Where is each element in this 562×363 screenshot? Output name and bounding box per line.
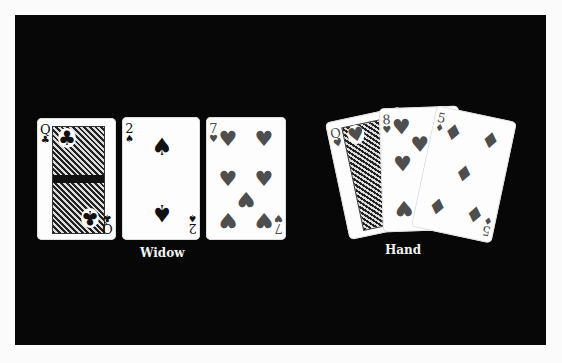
card-index-bottom: 7 ♥ xyxy=(274,213,283,235)
widow-card-two-of-spades[interactable]: 2 ♠ ♠ ♠ 2 ♠ xyxy=(122,117,200,240)
heart-icon: ♥ xyxy=(392,117,412,139)
heart-icon: ♥ xyxy=(394,197,414,219)
card-index-top: 8 ♥ xyxy=(382,113,392,135)
heart-icon: ♥ xyxy=(274,213,283,223)
diamond-icon: ♦ xyxy=(425,195,449,221)
heart-icon: ♥ xyxy=(219,129,238,150)
heart-icon: ♥ xyxy=(255,169,274,190)
widow-label: Widow xyxy=(140,246,185,260)
widow-card-queen-of-clubs[interactable]: Q ♣ ♣ ♣ Q ♣ xyxy=(37,118,116,240)
diamond-icon: ♦ xyxy=(478,128,502,154)
heart-icon: ♥ xyxy=(346,123,367,145)
spade-icon: ♠ xyxy=(125,134,134,144)
card-index-top: Q ♣ xyxy=(40,123,51,145)
card-index-bottom: Q ♣ xyxy=(102,213,113,235)
heart-icon: ♥ xyxy=(237,188,256,209)
heart-icon: ♥ xyxy=(393,154,413,176)
club-icon: ♣ xyxy=(40,135,51,145)
spade-icon: ♠ xyxy=(188,213,197,223)
heart-icon: ♥ xyxy=(219,169,238,190)
spade-icon: ♠ xyxy=(151,201,173,225)
heart-icon: ♥ xyxy=(209,134,218,144)
heart-icon: ♥ xyxy=(255,129,274,150)
card-index-top: 2 ♠ xyxy=(125,122,134,144)
cropped-caption-remnant xyxy=(0,0,562,6)
club-icon: ♣ xyxy=(81,208,99,228)
diamond-icon: ♦ xyxy=(441,120,465,146)
card-table: Q ♣ ♣ ♣ Q ♣ 2 ♠ ♠ ♠ 2 ♠ 7 ♥ ♥ ♥ ♥ xyxy=(15,15,546,345)
widow-card-seven-of-hearts[interactable]: 7 ♥ ♥ ♥ ♥ ♥ ♥ ♥ ♥ 7 ♥ xyxy=(206,117,286,240)
club-icon: ♣ xyxy=(58,128,76,148)
spade-icon: ♠ xyxy=(151,135,173,159)
card-index-top: 7 ♥ xyxy=(209,122,218,144)
heart-icon: ♥ xyxy=(219,209,238,230)
club-icon: ♣ xyxy=(102,213,113,223)
card-index-bottom: 2 ♠ xyxy=(188,213,197,235)
heart-icon: ♥ xyxy=(382,125,391,135)
heart-icon: ♥ xyxy=(255,209,274,230)
diamond-icon: ♦ xyxy=(452,162,476,188)
diamond-icon: ♦ xyxy=(483,215,494,227)
hand-label: Hand xyxy=(385,243,421,257)
